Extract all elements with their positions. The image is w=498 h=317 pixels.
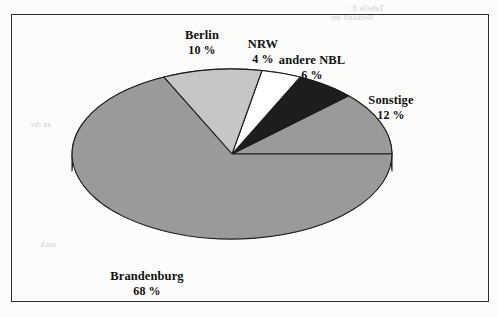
chart-frame-border: Berlin 10 % NRW 4 % andere NBL 6 % Sonst…: [11, 14, 489, 302]
pie-label-sonstige-value: 12 %: [368, 108, 413, 122]
pie-label-nrw-value: 4 %: [248, 52, 278, 66]
pie-label-brandenburg: Brandenburg 68 %: [110, 269, 183, 298]
pie-label-andere-nbl-name: andere NBL: [279, 53, 345, 67]
pie-label-sonstige: Sonstige 12 %: [368, 93, 413, 122]
pie-top-slices: [72, 69, 392, 239]
pie-chart: Berlin 10 % NRW 4 % andere NBL 6 % Sonst…: [12, 15, 488, 301]
pie-label-brandenburg-value: 68 %: [110, 284, 183, 298]
pie-label-brandenburg-name: Brandenburg: [110, 269, 183, 283]
pie-label-nrw-name: NRW: [248, 37, 278, 51]
pie-label-andere-nbl-value: 6 %: [279, 68, 345, 82]
pie-label-nrw: NRW 4 %: [248, 37, 278, 66]
pie-label-sonstige-name: Sonstige: [368, 93, 413, 107]
pie-label-berlin: Berlin 10 %: [185, 28, 219, 57]
pie-label-berlin-value: 10 %: [185, 43, 219, 57]
scanned-page: Tabelle 8: Herkunft der an der nach Berl…: [0, 0, 498, 317]
pie-label-berlin-name: Berlin: [185, 28, 219, 42]
bleed-through-text: Tabelle 8:: [350, 4, 384, 13]
pie-label-andere-nbl: andere NBL 6 %: [279, 53, 345, 82]
